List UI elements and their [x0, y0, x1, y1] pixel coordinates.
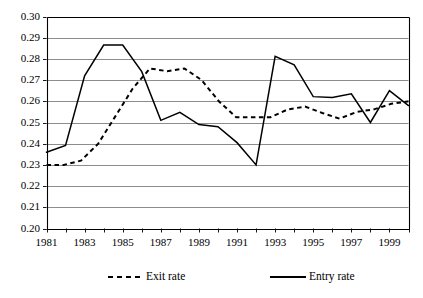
y-axis-tick-label: 0.22: [2, 180, 40, 191]
y-axis-tick-label: 0.21: [2, 201, 40, 212]
x-axis-tick-label: 1985: [103, 237, 143, 248]
y-axis-tick-label: 0.27: [2, 74, 40, 85]
data-series: [47, 45, 409, 165]
legend-label-exit-rate: Exit rate: [146, 270, 185, 282]
y-axis-tick-label: 0.25: [2, 117, 40, 128]
y-axis-tick-label: 0.26: [2, 95, 40, 106]
y-axis-tick-label: 0.29: [2, 32, 40, 43]
series-line-exit-rate: [47, 68, 409, 164]
y-axis-tick-label: 0.30: [2, 11, 40, 22]
line-chart: 0.300.290.280.270.260.250.240.230.220.21…: [0, 0, 423, 298]
x-axis-tick-label: 1989: [179, 237, 219, 248]
y-axis-tick-label: 0.20: [2, 223, 40, 234]
x-axis-tick-label: 1987: [141, 237, 181, 248]
chart-canvas: [0, 0, 423, 298]
y-axis-tick-label: 0.28: [2, 53, 40, 64]
x-axis-tick-label: 1997: [331, 237, 371, 248]
series-line-entry-rate: [47, 45, 409, 165]
x-axis-tick-label: 1983: [65, 237, 105, 248]
x-axis-tick-label: 1999: [369, 237, 409, 248]
x-axis-tick-label: 1981: [27, 237, 67, 248]
x-axis-tick-label: 1991: [217, 237, 257, 248]
y-axis-tick-label: 0.24: [2, 138, 40, 149]
x-axis-tick-label: 1993: [255, 237, 295, 248]
y-axis-tick-label: 0.23: [2, 159, 40, 170]
legend-label-entry-rate: Entry rate: [309, 270, 355, 282]
x-axis-tick-label: 1995: [293, 237, 333, 248]
y-axis-ticks: [43, 18, 47, 230]
